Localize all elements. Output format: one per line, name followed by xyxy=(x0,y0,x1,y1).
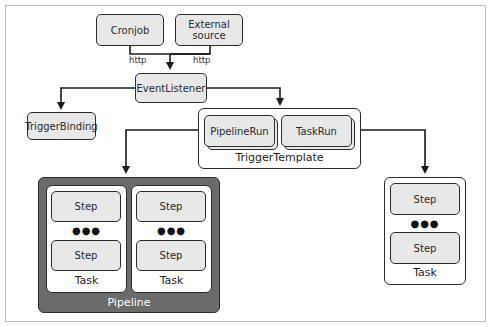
external-source-label: External source xyxy=(188,19,230,41)
trigger-template-label: TriggerTemplate xyxy=(198,151,361,164)
task1-step-2: Step xyxy=(51,240,121,271)
step-label: Step xyxy=(160,201,183,212)
trigger-binding-label: TriggerBinding xyxy=(25,121,97,132)
task2-ellipsis: ●●● xyxy=(131,225,212,236)
cronjob-node: Cronjob xyxy=(96,14,164,46)
event-listener-node: EventListener xyxy=(135,73,207,103)
standalone-step-1: Step xyxy=(390,183,460,215)
standalone-task-label: Task xyxy=(384,266,466,279)
task1-step-1: Step xyxy=(51,191,121,222)
step-label: Step xyxy=(160,250,183,261)
event-listener-label: EventListener xyxy=(137,83,206,94)
cronjob-label: Cronjob xyxy=(111,25,150,36)
step-label: Step xyxy=(75,250,98,261)
task2-step-1: Step xyxy=(136,191,206,222)
task1-ellipsis: ●●● xyxy=(46,225,127,236)
task2-label: Task xyxy=(131,274,212,287)
step-label: Step xyxy=(75,201,98,212)
standalone-step-2: Step xyxy=(390,232,460,264)
pipelinerun-node: PipelineRun xyxy=(204,115,275,147)
taskrun-label: TaskRun xyxy=(296,126,337,137)
taskrun-node: TaskRun xyxy=(281,115,352,147)
standalone-ellipsis: ●●● xyxy=(384,218,466,229)
task2-step-2: Step xyxy=(136,240,206,271)
http-label-left: http xyxy=(129,55,146,65)
http-label-right: http xyxy=(193,55,210,65)
pipeline-label: Pipeline xyxy=(38,296,220,309)
task1-label: Task xyxy=(46,274,127,287)
external-source-node: External source xyxy=(175,14,243,46)
step-label: Step xyxy=(414,243,437,254)
step-label: Step xyxy=(414,194,437,205)
trigger-binding-node: TriggerBinding xyxy=(27,112,96,140)
pipelinerun-label: PipelineRun xyxy=(210,126,268,137)
